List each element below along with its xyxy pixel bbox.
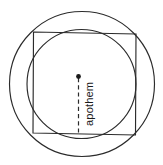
figure-canvas: apothem — [0, 0, 163, 165]
apothem-label: apothem — [83, 82, 95, 126]
inscribed-circle — [27, 30, 136, 139]
geometry-figure: apothem — [0, 0, 163, 165]
center-point-dot — [76, 74, 81, 79]
